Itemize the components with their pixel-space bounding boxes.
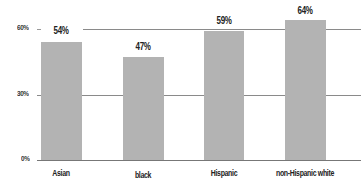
category-label-non-hispanic-white: non-Hispanic white [264, 168, 346, 178]
y-tick-60: 60% [17, 23, 29, 32]
bar-black [123, 57, 164, 160]
value-label-asian: 54% [37, 25, 85, 36]
y-tick-30: 30% [17, 89, 29, 98]
category-label-black: black [102, 170, 184, 180]
category-label-hispanic: Hispanic [183, 168, 265, 178]
y-tick-0: 0% [21, 154, 29, 163]
category-label-asian: Asian [20, 168, 102, 178]
value-label-black: 47% [119, 41, 167, 52]
value-label-non-hispanic-white: 64% [281, 5, 329, 16]
value-label-hispanic: 59% [200, 15, 248, 26]
bar-asian [41, 42, 82, 160]
bar-hispanic [204, 31, 244, 160]
baseline-0 [37, 160, 361, 161]
bar-non-hispanic-white [285, 20, 326, 160]
